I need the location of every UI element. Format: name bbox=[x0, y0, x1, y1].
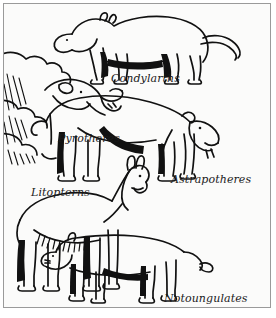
notoungulate-shade-hindleg bbox=[140, 266, 146, 296]
notoungulate-eye bbox=[52, 255, 54, 257]
figure-label-notoungulates: Notoungulates bbox=[164, 292, 248, 305]
astrapothere-eye bbox=[199, 127, 202, 130]
figure-label-astrapotheres: Astrapotheres bbox=[171, 173, 251, 186]
plate-frame-border: Condylarths Pyrotheres Astrapotheres Lit… bbox=[3, 3, 271, 308]
figure-label-condylarths: Condylarths bbox=[111, 72, 180, 85]
pyrothere-eye bbox=[80, 91, 82, 93]
litoptern-shade-hindleg bbox=[17, 240, 25, 282]
astrapothere-shade-foreleg bbox=[158, 144, 165, 174]
figure-plate: Condylarths Pyrotheres Astrapotheres Lit… bbox=[0, 0, 276, 318]
litoptern-eye bbox=[139, 175, 142, 178]
figure-label-pyrotheres: Pyrotheres bbox=[58, 132, 120, 145]
figure-label-litopterns: Litopterns bbox=[31, 186, 90, 199]
notoungulate-hindleg2-front bbox=[166, 262, 167, 296]
notoungulate-foreleg2-back bbox=[104, 272, 105, 299]
notoungulate-foreleg-back bbox=[83, 267, 84, 296]
notoungulate-shade-foreleg bbox=[70, 264, 76, 294]
notoungulate-hindleg2-back bbox=[175, 260, 176, 296]
litoptern-foreleg-back bbox=[99, 238, 100, 286]
illustration-canvas bbox=[4, 4, 270, 307]
condylarth-eye bbox=[66, 39, 68, 41]
